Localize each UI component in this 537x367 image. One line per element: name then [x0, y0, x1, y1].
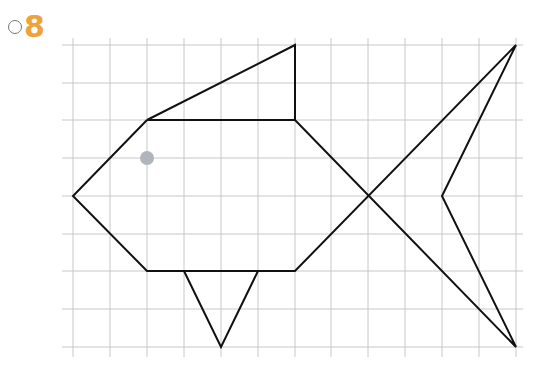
- fish-eye: [140, 151, 154, 165]
- grid-lines: [62, 38, 523, 357]
- fish-grid-diagram: [0, 0, 537, 367]
